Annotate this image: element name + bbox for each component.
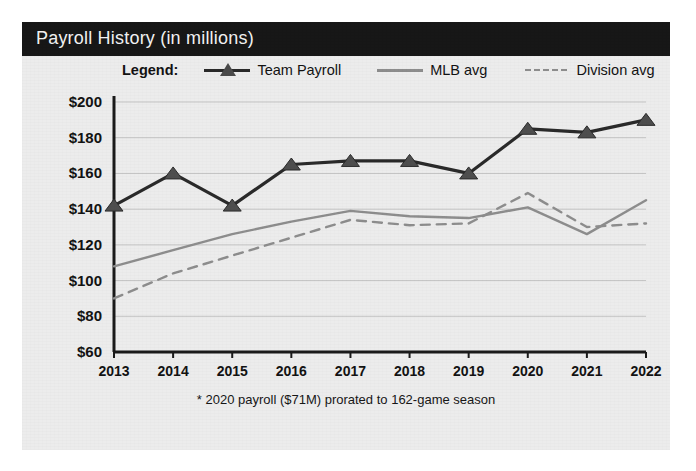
y-axis-tick-label: $120: [69, 236, 102, 253]
legend-swatch-division-avg: [523, 63, 569, 77]
legend-text-team-payroll: Team Payroll: [257, 62, 341, 78]
x-axis-tick-label: 2021: [571, 363, 602, 379]
line-chart-svg: $60$80$100$120$140$160$180$2002013201420…: [22, 86, 670, 386]
x-axis-tick-label: 2017: [335, 363, 366, 379]
y-axis-tick-label: $160: [69, 164, 102, 181]
series-line-mlb-avg: [114, 200, 646, 266]
y-axis-tick-label: $100: [69, 272, 102, 289]
chart-title-bar: Payroll History (in millions): [22, 22, 670, 56]
x-axis-tick-label: 2020: [512, 363, 543, 379]
chart-legend: Legend: Team Payroll MLB avg Division av…: [22, 56, 670, 86]
x-axis-tick-label: 2018: [394, 363, 425, 379]
legend-text-division-avg: Division avg: [576, 62, 654, 78]
legend-label: Legend:: [122, 62, 178, 78]
y-axis-tick-label: $200: [69, 93, 102, 110]
legend-item-team-payroll: Team Payroll: [204, 62, 341, 78]
chart-footnote: * 2020 payroll ($71M) prorated to 162-ga…: [22, 392, 670, 407]
y-axis-tick-label: $80: [77, 307, 102, 324]
legend-swatch-team-payroll: [204, 63, 250, 77]
x-axis-tick-label: 2013: [98, 363, 129, 379]
legend-swatch-mlb-avg: [377, 63, 423, 77]
y-axis-tick-label: $180: [69, 129, 102, 146]
x-axis-tick-label: 2016: [276, 363, 307, 379]
data-point-marker: [637, 113, 655, 125]
x-axis-tick-label: 2022: [630, 363, 661, 379]
legend-item-mlb-avg: MLB avg: [377, 62, 487, 78]
y-axis-tick-label: $140: [69, 200, 102, 217]
legend-text-mlb-avg: MLB avg: [430, 62, 487, 78]
payroll-history-chart-page: Payroll History (in millions) Legend: Te…: [0, 0, 696, 471]
x-axis-tick-label: 2015: [217, 363, 248, 379]
x-axis-tick-label: 2019: [453, 363, 484, 379]
legend-item-division-avg: Division avg: [523, 62, 654, 78]
plot-area: $60$80$100$120$140$160$180$2002013201420…: [22, 86, 670, 450]
x-axis-tick-label: 2014: [158, 363, 189, 379]
series-line-team-payroll: [114, 120, 646, 206]
y-axis-tick-label: $60: [77, 343, 102, 360]
page-title: Payroll History (in millions): [36, 28, 254, 49]
triangle-marker-icon: [220, 63, 236, 76]
